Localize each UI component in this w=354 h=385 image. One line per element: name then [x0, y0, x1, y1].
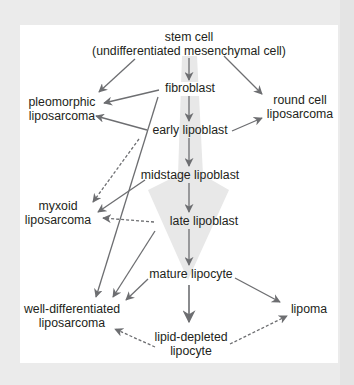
node-lipoma: lipoma	[291, 303, 327, 317]
node-late-lipoblast: late lipoblast	[170, 215, 238, 229]
depleted-line1: lipid-depleted	[154, 331, 227, 345]
arrow-mature-to-lipoma	[235, 278, 280, 302]
pleomorphic-line2: liposarcoma	[29, 110, 96, 124]
node-fibroblast: fibroblast	[163, 82, 217, 96]
pleomorphic-line1: pleomorphic	[29, 96, 96, 110]
arrow-mature-to-welldiff	[126, 279, 148, 300]
welldiff-line1: well-differentiated	[24, 303, 120, 317]
stem-cell-title: stem cell	[92, 31, 286, 45]
stem-cell-subtitle: (undifferentiated mesenchymal cell)	[92, 45, 286, 59]
arrow-early-to-myxoid	[93, 139, 139, 202]
roundcell-line1: round cell	[267, 94, 333, 108]
myxoid-line2: liposarcoma	[25, 214, 91, 228]
welldiff-line2: liposarcoma	[24, 317, 120, 331]
node-early-lipoblast: early lipoblast	[152, 124, 227, 138]
node-lipid-depleted-lipocyte: lipid-depleted lipocyte	[154, 331, 227, 358]
arrow-late-to-welldiff	[113, 231, 155, 297]
node-stem-cell: stem cell (undifferentiated mesenchymal …	[92, 31, 286, 58]
roundcell-line2: liposarcoma	[267, 108, 333, 122]
depleted-line2: lipocyte	[154, 345, 227, 359]
node-round-cell-liposarcoma: round cell liposarcoma	[267, 94, 333, 121]
arrow-stem-to-pleomorphic	[99, 59, 135, 92]
arrow-stem-to-roundcell	[224, 56, 262, 94]
arrow-depleted-to-lipoma	[230, 316, 287, 344]
node-midstage-lipoblast: midstage lipoblast	[141, 169, 239, 183]
node-well-differentiated-liposarcoma: well-differentiated liposarcoma	[24, 303, 120, 330]
arrow-early-to-pleomorphic	[96, 116, 147, 130]
arrow-late-to-myxoid	[103, 218, 154, 222]
arrow-fibroblast-to-pleomorphic	[104, 90, 159, 103]
node-myxoid-liposarcoma: myxoid liposarcoma	[25, 200, 91, 227]
node-mature-lipocyte: mature lipocyte	[149, 268, 232, 282]
node-pleomorphic-liposarcoma: pleomorphic liposarcoma	[29, 96, 96, 123]
arrow-early-to-roundcell	[232, 118, 262, 131]
arrow-depleted-to-welldiff	[115, 329, 155, 347]
myxoid-line1: myxoid	[25, 200, 91, 214]
